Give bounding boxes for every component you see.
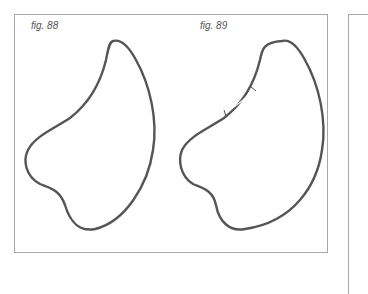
fig-89-shape xyxy=(180,41,323,230)
fig-88-shape xyxy=(26,41,155,230)
fig-89-highlight-segment xyxy=(225,88,254,113)
